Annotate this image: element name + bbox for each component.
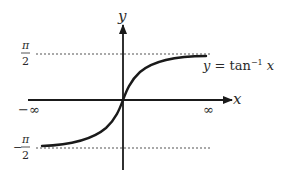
lower-fraction-sign: − [13, 141, 22, 154]
arctan-diagram: y x π 2 − π 2 −∞ ∞ y = tan−1 x [0, 0, 283, 175]
upper-asymptote-label: π 2 [21, 39, 30, 68]
curve-label-eq: = tan [210, 58, 251, 73]
x-axis-label: x [233, 90, 242, 108]
upper-fraction-numerator: π [21, 39, 30, 52]
y-axis-label: y [117, 7, 127, 25]
neg-infinity-label: −∞ [18, 102, 40, 117]
curve-label: y = tan−1 x [202, 58, 275, 73]
arctan-curve [42, 56, 206, 146]
curve-label-arg: x [263, 58, 275, 73]
upper-fraction-denominator: 2 [22, 55, 29, 68]
lower-fraction-denominator: 2 [22, 149, 29, 162]
curve-label-exponent: −1 [251, 58, 263, 67]
lower-fraction-numerator: π [21, 133, 30, 146]
lower-asymptote-label: − π 2 [13, 133, 30, 162]
pos-infinity-label: ∞ [203, 102, 214, 117]
